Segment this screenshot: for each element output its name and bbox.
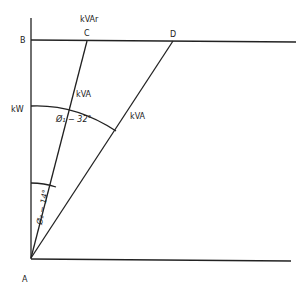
kva-line-ad: [31, 41, 173, 258]
kvar-label: kVAr: [80, 15, 99, 24]
point-label-c: C: [84, 29, 90, 38]
angle-label-phi1: Ø₁ − 32°: [55, 114, 91, 124]
point-label-d: D: [170, 30, 176, 39]
kva-label-ad: kVA: [130, 112, 146, 121]
angle-label-phi2: Ø₂ − 14°: [34, 189, 50, 227]
kvar-line: [31, 40, 296, 42]
base-line: [31, 259, 291, 261]
power-triangle-diagram: B C D A kVAr kW kVA kVA Ø₁ − 32° Ø₂ − 14…: [0, 0, 308, 287]
angle-arc-phi2: [31, 183, 56, 187]
point-label-a: A: [22, 275, 28, 284]
point-label-b: B: [20, 36, 26, 45]
kw-label: kW: [11, 105, 24, 114]
kva-label-ac: kVA: [76, 90, 92, 99]
